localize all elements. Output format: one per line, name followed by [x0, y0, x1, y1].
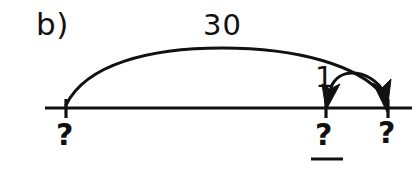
big-jump-label: 30 [203, 11, 242, 40]
tick-label-right: ? [378, 118, 395, 148]
tick-label-left: ? [56, 120, 73, 150]
small-jump-label: 1 [315, 63, 333, 92]
number-line-diagram-figure: b) 30 1 ? ? ? [0, 0, 419, 180]
panel-label: b) [36, 9, 69, 40]
big-jump-arc [66, 48, 382, 105]
tick-label-middle: ? [315, 120, 332, 150]
